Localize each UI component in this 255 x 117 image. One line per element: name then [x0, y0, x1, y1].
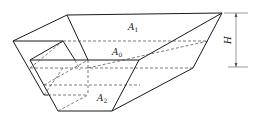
height-label: H — [223, 36, 233, 45]
arrow-down-icon — [235, 63, 238, 67]
solid-diagram: H A1 A0 A2 — [0, 0, 255, 117]
mid-area-label: A0 — [111, 47, 123, 58]
bottom-area-label: A2 — [96, 93, 108, 104]
height-dimension: H — [223, 13, 248, 67]
arrow-up-icon — [235, 13, 238, 17]
left-flap — [13, 41, 75, 111]
top-area-label: A1 — [127, 22, 138, 33]
